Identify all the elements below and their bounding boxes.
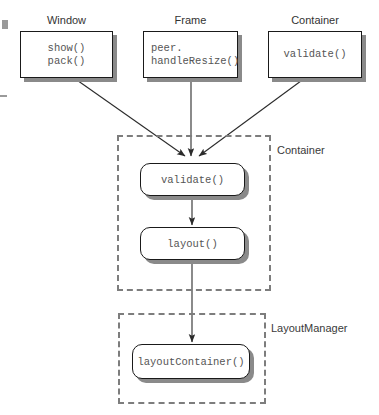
group-label-container: Container: [277, 144, 325, 156]
class-box-window[interactable]: show() pack(): [20, 31, 113, 78]
class-title-window: Window: [20, 14, 113, 26]
class-box-container[interactable]: validate(): [268, 31, 362, 78]
group-label-layoutmanager: LayoutManager: [271, 322, 347, 334]
method-box-layout-container[interactable]: layoutContainer(): [132, 344, 250, 379]
class-title-container: Container: [268, 14, 362, 26]
class-box-frame[interactable]: peer. handleResize(): [143, 31, 238, 78]
diagram-canvas: Window show() pack() Frame peer. handleR…: [0, 0, 379, 415]
group-box-container: [117, 135, 271, 291]
method-box-layout[interactable]: layout(): [140, 227, 245, 260]
class-methods-container: validate(): [269, 32, 361, 77]
method-box-validate[interactable]: validate(): [140, 163, 245, 196]
class-methods-window: show() pack(): [21, 32, 112, 77]
class-title-frame: Frame: [143, 14, 238, 26]
class-methods-frame: peer. handleResize(): [144, 32, 237, 77]
